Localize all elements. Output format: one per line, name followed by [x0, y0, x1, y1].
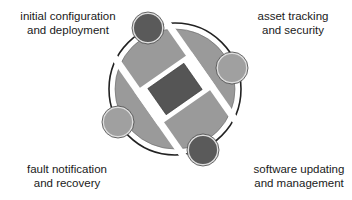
node-right — [216, 52, 248, 84]
label-line: and recovery — [22, 176, 112, 190]
label-line: and security — [248, 23, 338, 37]
label-software-updating: software updating and management — [244, 162, 352, 190]
label-line: and deployment — [18, 23, 118, 37]
label-fault-notification: fault notification and recovery — [22, 162, 112, 190]
label-line: software updating — [244, 162, 352, 176]
label-line: initial configuration — [18, 9, 118, 23]
label-line: fault notification — [22, 162, 112, 176]
label-line: and management — [244, 176, 352, 190]
label-asset-tracking: asset tracking and security — [248, 9, 338, 37]
node-bottom — [187, 134, 219, 166]
node-left — [102, 106, 134, 138]
node-top-left — [132, 12, 164, 44]
label-line: asset tracking — [248, 9, 338, 23]
label-initial-configuration: initial configuration and deployment — [18, 9, 118, 37]
